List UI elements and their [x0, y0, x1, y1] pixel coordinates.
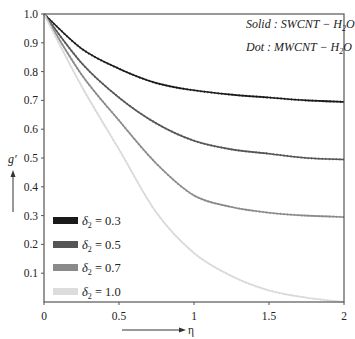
line-chart: 0.10.20.30.40.50.60.70.80.91.0 00.511.52…	[0, 0, 355, 339]
y-tick-label: 0.8	[24, 66, 39, 78]
y-tick-label: 0.3	[24, 210, 39, 222]
series-solid-1	[44, 14, 344, 159]
legend-label: δ2 = 0.7	[82, 261, 121, 277]
x-axis-label: η	[188, 324, 194, 337]
legend-label: δ2 = 0.3	[82, 214, 121, 230]
legend-swatch	[53, 264, 78, 271]
y-axis-arrow-icon	[11, 170, 16, 212]
y-tick-label: 0.9	[24, 37, 39, 49]
y-tick-label: 0.2	[24, 238, 39, 250]
annotation-dot: Dot : MWCNT − H2O	[245, 40, 352, 56]
legend-item: δ2 = 0.3	[53, 214, 121, 230]
x-tick-label: 0	[41, 310, 47, 322]
x-axis-arrow-icon	[122, 328, 186, 333]
legend-swatch	[53, 217, 78, 224]
x-tick-label: 2	[341, 310, 347, 322]
legend: δ2 = 0.3δ2 = 0.5δ2 = 0.7δ2 = 1.0	[53, 214, 121, 301]
plot-curves	[44, 14, 344, 302]
legend-swatch	[53, 241, 78, 248]
y-axis-label: g′	[8, 152, 17, 166]
series-dot-1	[44, 14, 344, 159]
y-tick-label: 0.1	[24, 267, 39, 279]
legend-swatch	[53, 288, 78, 295]
y-tick-label: 0.4	[24, 181, 39, 193]
y-tick-label: 0.6	[24, 123, 39, 135]
x-tick-label: 0.5	[112, 310, 127, 322]
legend-label: δ2 = 0.5	[82, 238, 121, 254]
x-axis-ticks: 00.511.52	[41, 302, 347, 322]
annotation-solid: Solid : SWCNT − H2O	[246, 17, 355, 33]
y-tick-label: 0.5	[24, 152, 39, 164]
y-tick-label: 1.0	[24, 8, 39, 20]
x-tick-label: 1.5	[262, 310, 277, 322]
legend-label: δ2 = 1.0	[82, 285, 121, 301]
legend-item: δ2 = 1.0	[53, 285, 121, 301]
y-axis-ticks: 0.10.20.30.40.50.60.70.80.91.0	[24, 8, 44, 279]
y-tick-label: 0.7	[24, 94, 39, 106]
x-tick-label: 1	[191, 310, 197, 322]
legend-item: δ2 = 0.5	[53, 238, 121, 254]
legend-item: δ2 = 0.7	[53, 261, 121, 277]
